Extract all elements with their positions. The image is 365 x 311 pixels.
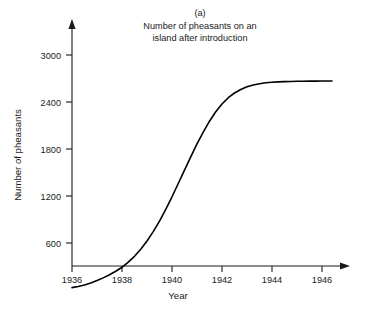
x-tick-label-1940: 1940 (162, 275, 182, 285)
y-tick-label-2400: 2400 (41, 98, 61, 108)
x-tick-label-1946: 1946 (312, 275, 332, 285)
panel-label: (a) (194, 8, 205, 18)
x-tick-label-1938: 1938 (112, 275, 132, 285)
chart-figure: (a) Number of pheasants on an island aft… (0, 0, 365, 311)
y-tick-label-3000: 3000 (41, 51, 61, 61)
y-tick-label-600: 600 (46, 239, 61, 249)
chart-background (0, 0, 365, 311)
x-tick-label-1936: 1936 (62, 275, 82, 285)
chart-title-line-2: island after introduction (153, 33, 248, 43)
chart-title-line-1: Number of pheasants on an (143, 21, 256, 31)
y-tick-label-1200: 1200 (41, 192, 61, 202)
x-tick-label-1944: 1944 (262, 275, 282, 285)
pheasant-population-chart: (a) Number of pheasants on an island aft… (0, 0, 365, 311)
x-tick-label-1942: 1942 (212, 275, 232, 285)
y-tick-label-1800: 1800 (41, 145, 61, 155)
y-axis-title: Number of pheasants (12, 109, 23, 201)
x-axis-title: Year (168, 290, 188, 301)
